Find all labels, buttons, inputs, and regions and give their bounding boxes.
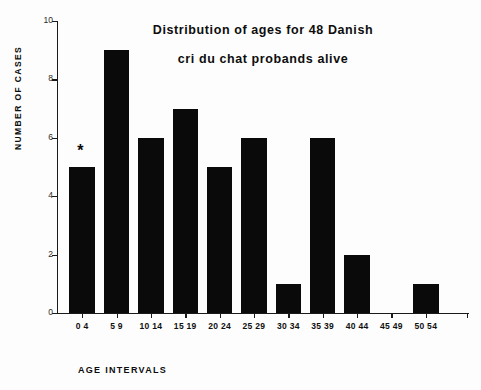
y-axis-tick-label: 8: [48, 73, 53, 83]
x-axis-tick-label: 45 49: [374, 321, 408, 331]
x-axis-tick-label: 15 19: [168, 321, 202, 331]
x-axis-tick-mark: [220, 313, 221, 318]
bar: [344, 255, 369, 313]
plot-area: 0246810 0 45 910 1415 1920 2425 2930 343…: [57, 21, 469, 313]
x-axis-tick-mark: [254, 313, 255, 318]
x-axis-tick-mark: [357, 313, 358, 318]
bar: [138, 138, 163, 313]
bar: [413, 284, 438, 313]
x-axis-tick-mark: [82, 313, 83, 318]
x-axis-tick-mark: [426, 313, 427, 318]
bar: [310, 138, 335, 313]
x-axis-tick-label: 5 9: [99, 321, 133, 331]
x-axis-tick-mark: [151, 313, 152, 318]
x-axis-tick-mark: [391, 313, 392, 318]
x-axis-tick-label: 30 34: [271, 321, 305, 331]
bar: [173, 109, 198, 313]
chart-figure: Distribution of ages for 48 Danish cri d…: [0, 0, 481, 390]
x-axis-tick-label: 25 29: [237, 321, 271, 331]
y-axis-tick-label: 4: [48, 190, 53, 200]
x-axis-tick-label: 0 4: [65, 321, 99, 331]
y-axis-tick-label: 6: [48, 132, 53, 142]
bar: [241, 138, 266, 313]
x-axis-tick-label: 35 39: [306, 321, 340, 331]
bar: [104, 50, 129, 313]
y-axis-line: [57, 21, 58, 313]
x-axis-tick-mark: [117, 313, 118, 318]
x-axis-tick-mark: [288, 313, 289, 318]
x-axis-tick-label: 40 44: [340, 321, 374, 331]
bar: [276, 284, 301, 313]
x-axis-tick-label: 20 24: [202, 321, 236, 331]
x-axis-line: [57, 313, 469, 314]
x-axis-tick-label: 10 14: [134, 321, 168, 331]
x-axis-tick-mark: [323, 313, 324, 318]
asterisk-annotation: *: [77, 143, 83, 159]
y-axis-tick-label: 0: [48, 307, 53, 317]
x-axis-title: AGE INTERVALS: [78, 365, 167, 375]
bar: [69, 167, 94, 313]
x-axis-end-tick-mark: [467, 313, 468, 318]
bar: [207, 167, 232, 313]
x-axis-tick-label: 50 54: [409, 321, 443, 331]
y-axis-tick-label: 2: [48, 249, 53, 259]
y-axis-title: NUMBER OF CASES: [13, 46, 23, 150]
y-axis-tick-label: 10: [44, 15, 53, 25]
x-axis-tick-mark: [185, 313, 186, 318]
